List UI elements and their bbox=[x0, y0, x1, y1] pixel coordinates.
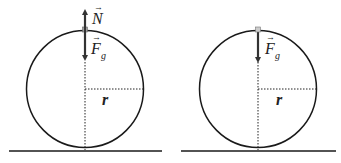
radius-label: r bbox=[276, 91, 283, 108]
object-box bbox=[256, 27, 261, 32]
gravity-subscript: g bbox=[275, 50, 280, 61]
vector-arrow-icon: → bbox=[92, 32, 101, 42]
gravity-force-label: F bbox=[90, 40, 101, 57]
right-diagram: F → g r bbox=[181, 27, 336, 151]
radius-label: r bbox=[102, 91, 109, 108]
normal-force-label: N bbox=[91, 10, 104, 27]
gravity-force-label: F bbox=[264, 40, 275, 57]
gravity-subscript: g bbox=[101, 50, 106, 61]
vector-arrow-icon: → bbox=[266, 32, 275, 42]
left-diagram: N → F → g r bbox=[9, 2, 162, 151]
vector-arrow-icon: → bbox=[94, 2, 103, 12]
physics-diagram: N → F → g r F → g r bbox=[0, 0, 341, 163]
